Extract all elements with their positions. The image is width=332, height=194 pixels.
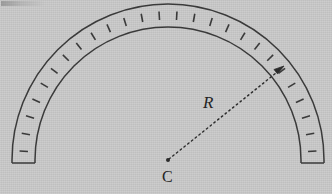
arch-radius-diagram [0,0,332,194]
hatch-tick [226,24,229,32]
hatch-tick [241,33,245,40]
arch-band [12,4,324,163]
hatch-tick [306,133,314,135]
hatch-tick [267,55,273,61]
center-point-dot [166,158,170,162]
hatch-tick [41,83,48,87]
hatch-tick [210,18,213,26]
hatch-tick [51,68,58,73]
hatch-tick [296,99,304,102]
hatch-tick [22,133,30,135]
radius-label: R [203,94,213,111]
hatch-tick [308,151,316,152]
hatch-tick [255,43,260,50]
hatch-tick [91,33,95,40]
center-label: C [162,169,173,185]
hatch-tick [176,12,177,20]
radius-indicator [169,66,284,159]
hatch-tick [20,151,28,152]
radius-dashed-line [169,69,281,159]
inner-arc-path [35,27,301,163]
hatch-tick [141,14,143,22]
hatch-tick [76,43,81,50]
hatch-tick [107,24,110,32]
hatch-tick [159,12,160,20]
hatch-tick [26,116,34,119]
hatch-tick [193,14,195,22]
hatch-tick [302,116,310,119]
hatch-tick [32,99,40,102]
hatch-tick [124,18,127,26]
radial-hatch-marks [20,12,317,152]
hatch-tick [288,83,295,87]
hatch-tick [63,55,69,61]
